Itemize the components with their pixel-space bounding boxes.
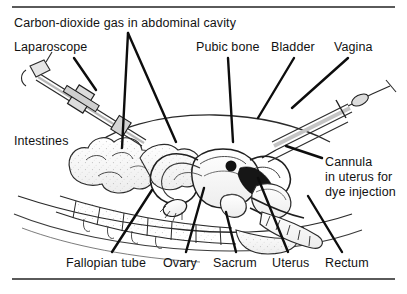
label-laparoscope: Laparoscope [14, 40, 87, 55]
label-vagina: Vagina [334, 40, 373, 55]
label-cannula-line3: dye injection [325, 185, 405, 200]
leader-cannula [286, 146, 322, 158]
label-bladder: Bladder [271, 40, 315, 55]
label-carbon-dioxide: Carbon-dioxide gas in abdominal cavity [14, 16, 236, 31]
laparoscopy-diagram-figure: Carbon-dioxide gas in abdominal cavity L… [0, 0, 407, 294]
label-intestines: Intestines [14, 134, 69, 149]
label-sacrum: Sacrum [213, 256, 257, 271]
laparoscope-valve [63, 85, 99, 113]
label-fallopian-tube: Fallopian tube [66, 256, 146, 271]
label-pubic-bone: Pubic bone [196, 40, 260, 55]
leader-laparoscope [74, 58, 96, 90]
leader-bladder [258, 58, 294, 118]
label-ovary: Ovary [163, 256, 197, 271]
intestines-illustration [69, 138, 201, 193]
leader-pubic-bone [228, 58, 233, 142]
label-uterus: Uterus [272, 256, 309, 271]
leader-vagina [292, 58, 348, 108]
label-rectum: Rectum [325, 256, 369, 271]
label-cannula-line2: in uterus for [325, 170, 405, 185]
label-cannula-line1: Cannula [325, 155, 405, 170]
cannula-syringe-instrument [262, 80, 396, 162]
